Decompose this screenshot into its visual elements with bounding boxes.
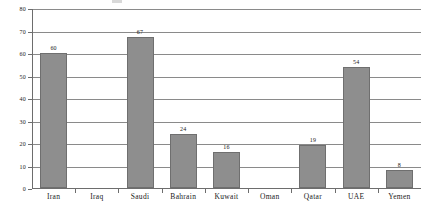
- x-tick-mark: [162, 189, 163, 193]
- bar-value-label-uae: 54: [353, 59, 359, 66]
- y-tick-label: 30: [20, 119, 26, 125]
- x-axis-label-kuwait: Kuwait: [215, 192, 239, 201]
- y-tick-mark: [28, 122, 32, 123]
- plot-area: 01020304050607080 6067241619548: [32, 9, 421, 189]
- x-tick-mark: [118, 189, 119, 193]
- y-tick-label: 10: [20, 164, 26, 170]
- bar-value-label-qatar: 19: [310, 137, 316, 144]
- bar-saudi[interactable]: [127, 37, 154, 188]
- x-tick-mark: [75, 189, 76, 193]
- y-tick-mark: [28, 99, 32, 100]
- y-tick-label: 20: [20, 141, 26, 147]
- x-axis-label-yemen: Yemen: [388, 192, 410, 201]
- x-axis-label-bahrain: Bahrain: [170, 192, 196, 201]
- y-tick-label: 80: [20, 6, 26, 12]
- y-tick-mark: [28, 144, 32, 145]
- bar-value-label-kuwait: 16: [223, 144, 229, 151]
- x-axis-label-oman: Oman: [260, 192, 280, 201]
- y-tick-mark: [28, 32, 32, 33]
- x-axis-label-qatar: Qatar: [304, 192, 322, 201]
- x-axis-label-iraq: Iraq: [90, 192, 103, 201]
- gridline: [33, 32, 421, 33]
- bar-bahrain[interactable]: [170, 134, 197, 188]
- y-tick-label: 0: [23, 186, 26, 192]
- cropped-title-artifact: [112, 0, 122, 3]
- bar-uae[interactable]: [343, 67, 370, 189]
- bar-value-label-saudi: 67: [137, 29, 143, 36]
- x-tick-mark: [335, 189, 336, 193]
- y-tick-mark: [28, 189, 32, 190]
- x-tick-mark: [248, 189, 249, 193]
- x-tick-mark: [205, 189, 206, 193]
- x-axis-label-uae: UAE: [348, 192, 364, 201]
- bar-value-label-bahrain: 24: [180, 126, 186, 133]
- bar-yemen[interactable]: [386, 170, 413, 188]
- bar-value-label-yemen: 8: [398, 162, 401, 169]
- bar-qatar[interactable]: [299, 145, 326, 188]
- x-tick-mark: [378, 189, 379, 193]
- x-axis-line: [32, 188, 421, 189]
- x-axis-label-iran: Iran: [47, 192, 60, 201]
- y-tick-mark: [28, 77, 32, 78]
- y-tick-label: 40: [20, 96, 26, 102]
- y-tick-label: 70: [20, 29, 26, 35]
- bar-chart: 01020304050607080 6067241619548 IranIraq…: [0, 0, 427, 209]
- gridline: [33, 9, 421, 10]
- y-tick-label: 60: [20, 51, 26, 57]
- gridline: [33, 54, 421, 55]
- x-axis-label-saudi: Saudi: [131, 192, 150, 201]
- bar-value-label-iran: 60: [50, 45, 56, 52]
- y-tick-label: 50: [20, 74, 26, 80]
- bar-kuwait[interactable]: [213, 152, 240, 188]
- x-tick-mark: [291, 189, 292, 193]
- y-tick-mark: [28, 9, 32, 10]
- y-tick-mark: [28, 167, 32, 168]
- bar-iran[interactable]: [40, 53, 67, 188]
- y-tick-mark: [28, 54, 32, 55]
